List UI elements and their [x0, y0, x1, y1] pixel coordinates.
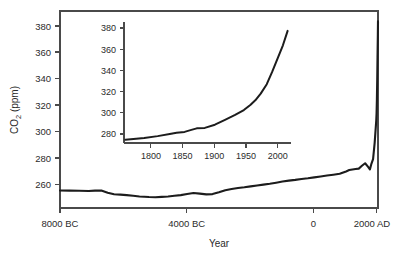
inset-x-tick-label-1800: 1800 [141, 151, 161, 161]
inset-x-tick-label-1850: 1850 [173, 151, 193, 161]
inset-y-tick-label-380: 380 [101, 23, 116, 33]
main-y-axis: 380 360 340 320 300 280 260 [35, 21, 60, 191]
chart-svg: 380 360 340 320 300 280 260 8000 BC 4000… [0, 0, 397, 263]
x-axis-title: Year [209, 238, 230, 249]
y-axis-title-prefix: CO [9, 119, 20, 134]
co2-inset-series-line [125, 31, 287, 140]
inset-y-tick-label-320: 320 [101, 87, 116, 97]
y-tick-label-320: 320 [35, 100, 51, 111]
x-tick-label-4000bc: 4000 BC [168, 218, 205, 229]
inset-x-tick-label-1950: 1950 [236, 151, 256, 161]
x-tick-label-2000ad: 2000 AD [354, 218, 391, 229]
x-tick-label-0: 0 [311, 218, 316, 229]
y-tick-label-300: 300 [35, 126, 51, 137]
y-tick-label-380: 380 [35, 21, 51, 32]
y-axis-title: CO2 (ppm) [9, 86, 23, 134]
inset-x-tick-label-1900: 1900 [204, 151, 224, 161]
inset-y-tick-label-360: 360 [101, 45, 116, 55]
inset-x-tick-label-2000: 2000 [268, 151, 288, 161]
y-tick-label-360: 360 [35, 47, 51, 58]
y-tick-label-340: 340 [35, 73, 51, 84]
inset-y-tick-label-340: 340 [101, 66, 116, 76]
inset-y-tick-label-280: 280 [101, 129, 116, 139]
main-x-axis: 8000 BC 4000 BC 0 2000 AD [42, 208, 391, 229]
inset-y-tick-label-300: 300 [101, 108, 116, 118]
svg-text:CO2 (ppm): CO2 (ppm) [9, 86, 23, 134]
co2-chart-figure: 380 360 340 320 300 280 260 8000 BC 4000… [0, 0, 397, 263]
y-axis-title-suffix: (ppm) [9, 86, 20, 115]
y-tick-label-280: 280 [35, 153, 51, 164]
x-tick-label-8000bc: 8000 BC [42, 218, 79, 229]
y-tick-label-260: 260 [35, 179, 51, 190]
inset-plot: 380 360 340 320 300 280 1800 1850 1900 1… [101, 22, 291, 161]
